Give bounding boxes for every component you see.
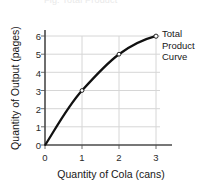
annotation-line-1: Total xyxy=(162,28,195,40)
data-point-2 xyxy=(117,52,121,56)
annotation-line-3: Curve xyxy=(162,51,195,63)
horizontal-gridlines xyxy=(45,36,160,127)
total-product-curve-annotation: Total Product Curve xyxy=(162,28,195,63)
chart-figure: Fig. Total Product Quantity of Output (p… xyxy=(0,0,199,185)
data-point-3 xyxy=(154,34,158,38)
data-point-1 xyxy=(80,89,84,93)
annotation-line-2: Product xyxy=(162,40,195,52)
